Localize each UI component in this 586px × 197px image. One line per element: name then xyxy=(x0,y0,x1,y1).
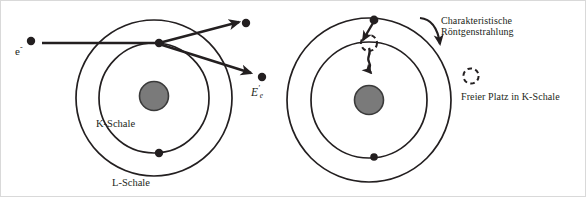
l-shell-label: L-Schale xyxy=(112,177,150,189)
xray-annotation-line-2: Röntgenstrahlung xyxy=(441,26,514,37)
right-atom xyxy=(287,16,451,182)
scattered-electron-arrow xyxy=(159,44,251,73)
left-beam-group xyxy=(27,19,266,81)
xray-annotation-leader-arrow xyxy=(420,18,440,44)
scattered-energy-label: E'e xyxy=(251,85,263,100)
left-nucleus xyxy=(140,82,169,111)
emitted-photon-wavy-arrow xyxy=(368,48,371,73)
left-outer-shell-electron xyxy=(155,149,163,157)
characteristic-xray-annotation: Charakteristische Röntgenstrahlung xyxy=(441,15,514,37)
xray-annotation-line-1: Charakteristische xyxy=(441,15,512,26)
k-shell-label: K-Schale xyxy=(96,118,135,130)
xray-characteristic-radiation-figure: e- E'e K-Schale L-Schale Charakteristisc… xyxy=(0,0,586,197)
electron-transition-arrow xyxy=(363,23,373,40)
incident-electron-label: e- xyxy=(15,44,23,57)
ejected-electron-dot xyxy=(242,19,250,27)
vacancy-legend-label: Freier Platz in K-Schale xyxy=(461,91,560,102)
right-nucleus xyxy=(355,86,384,115)
scattered-electron-dot xyxy=(258,73,266,81)
right-outer-shell-electron xyxy=(370,153,378,161)
legend-dashed-circle-icon xyxy=(463,68,478,83)
ejected-electron-arrow xyxy=(159,22,239,43)
incident-electron-dot xyxy=(27,37,35,45)
right-falling-electron xyxy=(370,16,379,25)
